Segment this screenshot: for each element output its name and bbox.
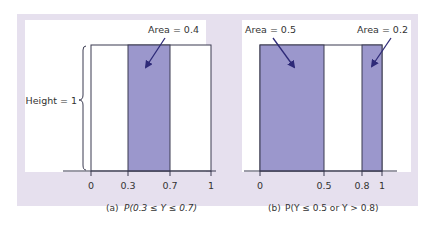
height-brace-icon	[79, 46, 86, 170]
chart-a-caption-math: P(0.3 ≤ Y ≤ 0.7)	[124, 203, 197, 213]
chart-a: 0 0.3 0.7 1 Height = 1 Area = 0.4 (a) P(…	[26, 24, 216, 213]
chart-b-area-label-left: Area = 0.5	[245, 24, 296, 35]
chart-b-ticks	[260, 171, 382, 176]
chart-b-caption-math: P(Y ≤ 0.5 or Y > 0.8)	[285, 203, 379, 213]
chart-b-tick-label: 0	[257, 180, 263, 191]
chart-b: 0 0.5 0.8 1 Area = 0.5 Area = 0.2 (b) P(…	[244, 24, 408, 213]
chart-a-caption-prefix: (a)	[106, 203, 119, 213]
chart-b-tick-label: 1	[379, 180, 385, 191]
chart-a-shaded-region	[128, 45, 170, 171]
figure: 0 0.3 0.7 1 Height = 1 Area = 0.4 (a) P(…	[0, 0, 431, 230]
chart-b-shaded-region-right	[362, 45, 382, 171]
chart-b-caption-prefix: (b)	[268, 203, 281, 213]
chart-a-ticks	[91, 171, 211, 176]
chart-a-tick-label: 1	[208, 180, 214, 191]
chart-b-tick-label: 0.5	[316, 180, 331, 191]
chart-b-tick-label: 0.8	[354, 180, 369, 191]
figure-svg: 0 0.3 0.7 1 Height = 1 Area = 0.4 (a) P(…	[0, 0, 431, 230]
chart-a-tick-label: 0.7	[162, 180, 177, 191]
chart-a-area-label: Area = 0.4	[148, 24, 199, 35]
chart-b-area-label-right: Area = 0.2	[357, 24, 408, 35]
chart-a-tick-label: 0.3	[120, 180, 135, 191]
chart-a-tick-label: 0	[88, 180, 94, 191]
height-label: Height = 1	[26, 95, 77, 106]
